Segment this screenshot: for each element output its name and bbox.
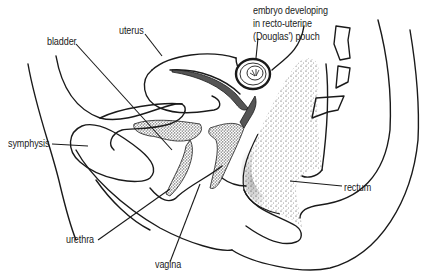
urethra-channel xyxy=(134,120,202,196)
label-urethra: urethra xyxy=(66,233,94,245)
pelvic-section-diagram: embryo developing in recto-uterine (Doug… xyxy=(0,0,431,280)
label-embryo-line3: (Douglas') pouch xyxy=(253,30,320,42)
label-embryo-line2: in recto-uterine xyxy=(253,17,312,29)
label-bladder: bladder xyxy=(47,35,77,47)
label-uterus: uterus xyxy=(119,24,144,36)
embryo xyxy=(236,59,270,89)
abdominal-wall xyxy=(28,56,182,240)
label-embryo-line1: embryo developing xyxy=(253,4,328,16)
label-vagina: vagina xyxy=(155,258,181,270)
label-symphysis: symphysis xyxy=(8,137,49,149)
pelvic-floor-lines xyxy=(76,20,418,270)
vagina-channel xyxy=(209,123,246,188)
label-rectum: rectum xyxy=(344,181,371,193)
